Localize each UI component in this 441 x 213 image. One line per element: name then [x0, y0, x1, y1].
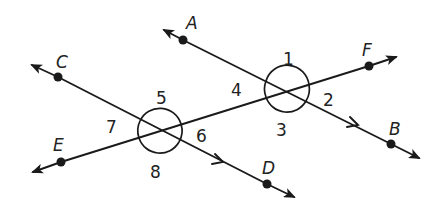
point-f: [365, 62, 374, 71]
label-b: B: [389, 119, 401, 139]
angle-7-arc: [138, 121, 140, 138]
angle-label-5: 5: [156, 88, 167, 108]
angle-8-arc: [139, 138, 179, 153]
label-f: F: [362, 40, 372, 60]
angle-4-arc: [264, 81, 266, 97]
label-c: C: [56, 52, 68, 72]
parallel-lines-transversal-diagram: A B C D E F 1 2 3 4 5 6 7 8: [0, 0, 441, 213]
point-d: [263, 180, 272, 189]
point-b: [387, 140, 396, 149]
angle-label-6: 6: [196, 126, 207, 146]
angle-label-4: 4: [231, 80, 242, 100]
angle-label-3: 3: [276, 120, 287, 140]
label-a: A: [185, 13, 198, 33]
point-e: [57, 158, 66, 167]
line-ab-arrow-right: [391, 144, 419, 158]
angle-label-8: 8: [150, 162, 161, 182]
upper-intersection-arcs: [264, 65, 309, 112]
label-e: E: [53, 135, 64, 155]
point-a: [179, 36, 188, 45]
angle-label-2: 2: [323, 90, 334, 110]
angle-label-1: 1: [283, 49, 294, 69]
angle-2-arc: [306, 85, 309, 101]
label-d: D: [262, 158, 275, 178]
point-c: [54, 73, 63, 82]
line-ef: [61, 66, 369, 162]
angle-label-7: 7: [106, 117, 117, 137]
